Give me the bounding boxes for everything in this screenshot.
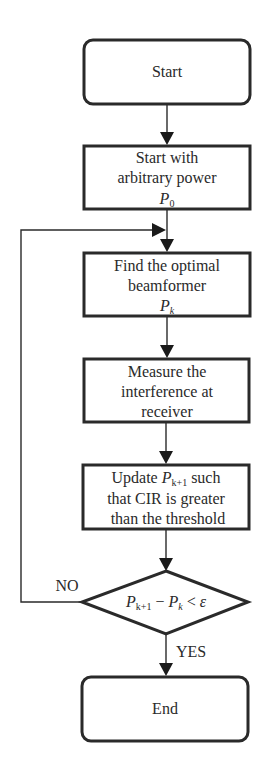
arrow-decision-to-end: [159, 634, 173, 676]
start-label: Start: [152, 63, 183, 80]
beamformer-line-1: Find the optimal: [114, 257, 220, 275]
arrow-beamformer-to-measure: [160, 316, 174, 358]
arrowhead-icon: [160, 132, 174, 145]
measure-node: Measure the interference at receiver: [84, 359, 249, 422]
arrowhead-icon: [159, 451, 173, 464]
arrowhead-icon: [160, 345, 174, 358]
arrowhead-icon: [159, 558, 173, 571]
flowchart: Start Start with arbitrary power P0 Find…: [0, 0, 272, 774]
arrow-measure-to-update: [159, 422, 173, 464]
arrowhead-icon: [152, 223, 166, 237]
update-line-1: Update Pk+1 such: [112, 469, 221, 488]
beamformer-node: Find the optimal beamformer Pk: [84, 253, 250, 316]
yes-label: YES: [176, 643, 206, 660]
measure-line-1: Measure the: [128, 363, 207, 380]
measure-line-2: interference at: [121, 383, 213, 400]
update-node: Update Pk+1 such that CIR is greater tha…: [83, 465, 249, 529]
update-line-3: than the threshold: [111, 510, 226, 527]
init-line-1: Start with: [136, 149, 199, 166]
start-node: Start: [84, 40, 250, 104]
measure-line-3: receiver: [141, 403, 193, 420]
init-node: Start with arbitrary power P0: [84, 146, 250, 209]
end-label: End: [152, 700, 178, 717]
decision-node: Pk+1 − Pk < ε: [82, 571, 248, 634]
update-line-2: that CIR is greater: [107, 490, 225, 508]
init-line-2: arbitrary power: [117, 169, 217, 187]
arrowhead-icon: [159, 663, 173, 676]
arrowhead-icon: [160, 239, 174, 252]
arrow-update-to-decision: [159, 529, 173, 571]
beamformer-line-2: beamformer: [128, 277, 207, 294]
no-label: NO: [55, 577, 78, 594]
arrow-start-to-init: [160, 104, 174, 145]
end-node: End: [82, 677, 248, 741]
